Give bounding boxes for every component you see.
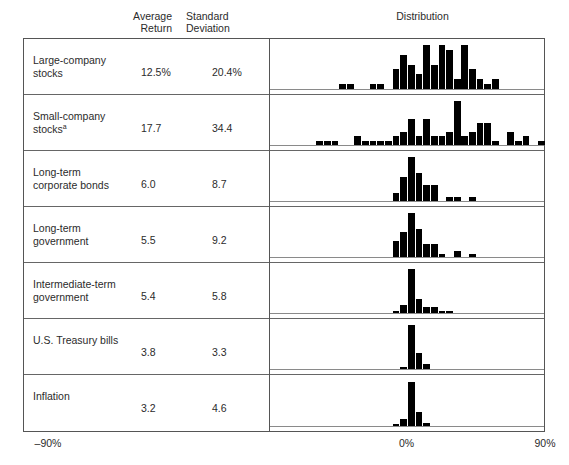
histogram-baseline <box>270 89 544 90</box>
histogram-bar <box>416 412 423 426</box>
histogram-bar <box>416 299 423 313</box>
histogram-bar <box>461 136 468 145</box>
axis-tick-right: 90% <box>534 437 555 449</box>
histogram-bar <box>400 367 407 369</box>
histogram-bar <box>439 136 446 145</box>
histogram-bar <box>416 229 423 257</box>
table-row: Intermediate-term government5.45.8 <box>24 263 544 319</box>
cell-standard-deviation: 5.8 <box>212 290 272 302</box>
histogram-bar <box>492 79 499 89</box>
cell-average-return: 5.5 <box>141 234 201 246</box>
histogram-bar <box>362 141 369 145</box>
histogram-bar <box>393 311 400 313</box>
histogram-bar <box>316 141 323 145</box>
axis-tick-left: –90% <box>35 437 62 449</box>
histogram-bar <box>400 419 407 426</box>
histogram-bar <box>408 325 415 369</box>
row-label: Long-term corporate bonds <box>33 166 138 191</box>
cell-standard-deviation: 20.4% <box>212 66 272 78</box>
histogram-3 <box>270 151 544 206</box>
axis-tick-center: 0% <box>399 437 414 449</box>
histogram-bar <box>439 311 446 313</box>
histogram-bar <box>354 136 361 145</box>
cell-average-return: 3.8 <box>141 346 201 358</box>
table-row: Long-term corporate bonds6.08.7 <box>24 151 544 207</box>
histogram-bar <box>408 213 415 257</box>
histogram-baseline <box>270 313 544 314</box>
cell-standard-deviation: 8.7 <box>212 178 272 190</box>
histogram-bar <box>423 307 430 313</box>
histogram-bar <box>377 141 384 145</box>
histogram-bar <box>439 254 446 257</box>
histogram-bar <box>370 141 377 145</box>
histogram-bar <box>454 101 461 145</box>
histogram-baseline <box>270 145 544 146</box>
returns-distribution-figure: Average Return Standard Deviation Distri… <box>0 0 569 465</box>
histogram-baseline <box>270 369 544 370</box>
histogram-bar <box>523 136 530 145</box>
histogram-bar <box>454 251 461 257</box>
histogram-4 <box>270 207 544 262</box>
histogram-bar <box>400 55 407 89</box>
histogram-bar <box>393 69 400 89</box>
table-row: Small-company stocksa17.734.4 <box>24 95 544 151</box>
histogram-bar <box>408 269 415 313</box>
histogram-bar <box>423 45 430 89</box>
histogram-bar <box>507 132 514 145</box>
histogram-bar <box>538 141 545 145</box>
histogram-bar <box>431 307 438 313</box>
histogram-bar <box>454 79 461 89</box>
table-row: Large-company stocks12.5%20.4% <box>24 39 544 95</box>
row-label: Inflation <box>33 390 138 403</box>
histogram-bar <box>400 177 407 201</box>
histogram-bar <box>423 364 430 370</box>
histogram-bar <box>431 244 438 257</box>
histogram-bar <box>477 79 484 89</box>
histogram-bar <box>423 119 430 145</box>
histogram-bar <box>492 141 499 145</box>
histogram-bar <box>339 84 346 89</box>
table-row: Long-term government5.59.2 <box>24 207 544 263</box>
cell-average-return: 3.2 <box>141 402 201 414</box>
histogram-bar <box>416 136 423 145</box>
histogram-bar <box>408 382 415 426</box>
histogram-bar <box>393 193 400 201</box>
histogram-bar <box>446 132 453 145</box>
histogram-bar <box>408 157 415 201</box>
histogram-bar <box>370 84 377 89</box>
cell-standard-deviation: 34.4 <box>212 122 272 134</box>
histogram-bar <box>400 305 407 313</box>
histogram-bar <box>408 65 415 89</box>
histogram-bar <box>393 136 400 145</box>
table-row: Inflation3.24.6 <box>24 375 544 431</box>
histogram-bar <box>400 232 407 257</box>
histogram-6 <box>270 319 544 374</box>
row-label: Intermediate-term government <box>33 278 138 303</box>
histogram-bar <box>431 136 438 145</box>
histogram-bar <box>423 423 430 426</box>
histogram-bar <box>454 197 461 201</box>
plot-divider <box>269 39 270 431</box>
column-header-standard-deviation: Standard Deviation <box>186 10 258 34</box>
histogram-bar <box>461 45 468 89</box>
histogram-bar <box>393 241 400 257</box>
histogram-bar <box>377 84 384 89</box>
cell-standard-deviation: 3.3 <box>212 346 272 358</box>
cell-average-return: 6.0 <box>141 178 201 190</box>
histogram-baseline <box>270 426 544 427</box>
histogram-bar <box>469 69 476 89</box>
histogram-bar <box>423 185 430 201</box>
histogram-bar <box>423 244 430 257</box>
histogram-bar <box>484 123 491 145</box>
row-label: U.S. Treasury bills <box>33 334 138 347</box>
cell-standard-deviation: 9.2 <box>212 234 272 246</box>
histogram-bar <box>446 50 453 89</box>
histogram-bar <box>469 197 476 201</box>
histogram-bar <box>439 45 446 89</box>
histogram-bar <box>324 141 331 145</box>
cell-average-return: 5.4 <box>141 290 201 302</box>
returns-table: Large-company stocks12.5%20.4%Small-comp… <box>23 38 545 432</box>
row-label: Long-term government <box>33 222 138 247</box>
histogram-bar <box>416 173 423 201</box>
histogram-1 <box>270 39 544 94</box>
